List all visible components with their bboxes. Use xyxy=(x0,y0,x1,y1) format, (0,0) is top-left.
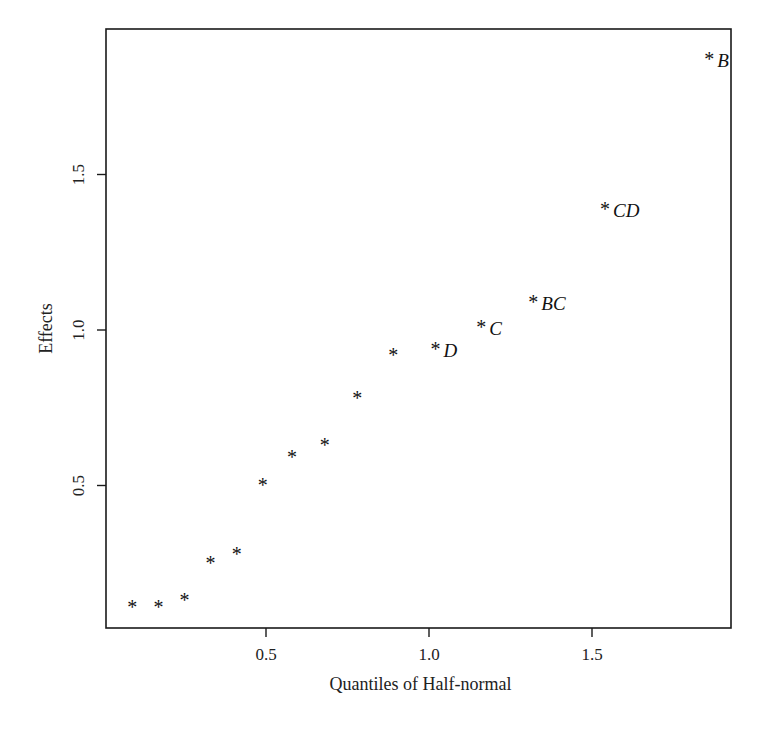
point-label: CD xyxy=(613,200,640,221)
x-axis-title: Quantiles of Half-normal xyxy=(330,674,512,694)
point-marker: * xyxy=(232,543,242,565)
y-axis-ticks: 0.51.01.5 xyxy=(69,164,106,496)
point-label: B xyxy=(717,50,729,71)
point-marker: * xyxy=(127,596,137,618)
point-marker: * xyxy=(704,48,714,70)
point-marker: * xyxy=(258,474,268,496)
point-label: D xyxy=(443,340,458,361)
point-marker: * xyxy=(287,446,297,468)
x-axis-ticks: 0.51.01.5 xyxy=(255,628,602,664)
x-tick-label: 0.5 xyxy=(255,645,276,664)
data-points: ***********D*C*BC*CD*B xyxy=(127,48,729,617)
y-axis-title: Effects xyxy=(36,303,56,354)
point-marker: * xyxy=(352,387,362,409)
point-marker: * xyxy=(388,344,398,366)
point-marker: * xyxy=(153,596,163,618)
point-marker: * xyxy=(476,316,486,338)
plot-frame xyxy=(106,29,731,628)
point-label: C xyxy=(489,318,502,339)
point-marker: * xyxy=(431,338,441,360)
y-tick-label: 0.5 xyxy=(69,475,88,496)
point-marker: * xyxy=(180,589,190,611)
y-tick-label: 1.0 xyxy=(69,319,88,340)
point-label: BC xyxy=(541,293,566,314)
y-tick-label: 1.5 xyxy=(69,164,88,185)
point-marker: * xyxy=(528,291,538,313)
point-marker: * xyxy=(206,552,216,574)
point-marker: * xyxy=(600,198,610,220)
x-tick-label: 1.5 xyxy=(581,645,602,664)
point-marker: * xyxy=(320,434,330,456)
x-tick-label: 1.0 xyxy=(418,645,439,664)
half-normal-plot: 0.51.01.5 0.51.01.5 ***********D*C*BC*CD… xyxy=(0,0,770,732)
